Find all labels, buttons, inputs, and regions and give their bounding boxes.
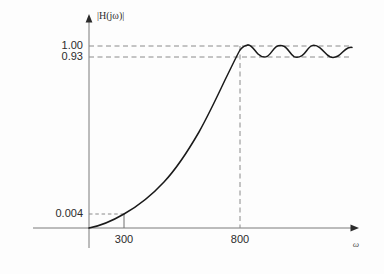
plot-background <box>0 0 384 274</box>
frequency-response-figure: 1.00 0.93 0.004 300 800 |H(jω)| ω <box>0 0 384 274</box>
magnitude-response-plot: 1.00 0.93 0.004 300 800 |H(jω)| ω <box>0 0 384 274</box>
x-axis-title: ω <box>353 239 359 249</box>
x-tick-label-800: 800 <box>231 233 249 245</box>
x-tick-label-300: 300 <box>115 233 133 245</box>
y-tick-label-0-93: 0.93 <box>62 50 83 62</box>
y-axis-title: |H(jω)| <box>97 10 124 22</box>
y-tick-label-0-004: 0.004 <box>55 207 83 219</box>
